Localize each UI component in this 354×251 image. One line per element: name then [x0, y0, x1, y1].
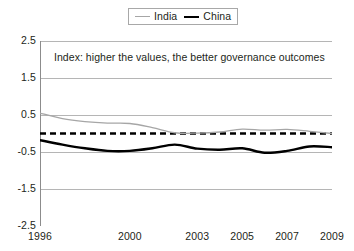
x-tick-label: 2007	[275, 231, 299, 242]
x-tick-label: 2003	[185, 231, 209, 242]
x-tick-label: 1996	[28, 231, 52, 242]
x-tick-label: 2009	[320, 231, 344, 242]
chart-figure: India China Index: higher the values, th…	[0, 0, 354, 251]
x-tick-label: 2000	[118, 231, 142, 242]
x-tick-label: 2005	[230, 231, 254, 242]
x-axis-tick-labels: 199620002003200520072009	[0, 0, 354, 251]
